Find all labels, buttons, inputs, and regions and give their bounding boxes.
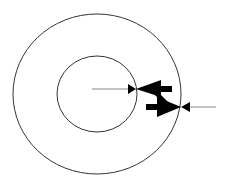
outer-small-arrowhead-icon	[181, 102, 190, 112]
inner-circle	[57, 56, 137, 132]
inner-arrow-shaft	[158, 86, 172, 92]
inner-radius-arrow	[92, 80, 172, 97]
concentric-circles-diagram	[0, 0, 228, 185]
inner-small-arrowhead-icon	[128, 84, 136, 94]
